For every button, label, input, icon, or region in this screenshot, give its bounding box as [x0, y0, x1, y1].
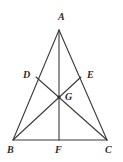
triangle-diagram-svg	[0, 0, 123, 162]
vertex-label-g: G	[65, 92, 72, 102]
triangle-sides	[13, 30, 107, 140]
vertex-label-f: F	[55, 145, 62, 155]
vertex-label-b: B	[7, 145, 14, 155]
point-markers	[57, 95, 60, 98]
median-cevians	[13, 30, 107, 140]
side-AC-line	[59, 30, 107, 140]
vertex-label-d: D	[23, 70, 30, 80]
centroid-dot-marker	[57, 95, 60, 98]
geometry-figure: A B C D E F G	[0, 0, 123, 162]
vertex-label-c: C	[105, 145, 112, 155]
vertex-label-e: E	[87, 70, 94, 80]
vertex-label-a: A	[58, 12, 65, 22]
side-AB-line	[13, 30, 59, 140]
